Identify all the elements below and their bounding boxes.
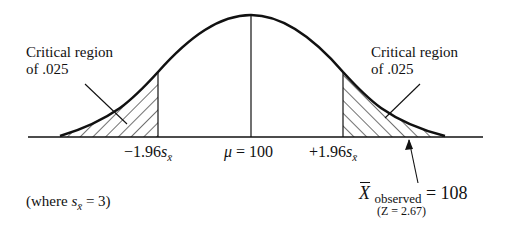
left-critical-tick: −1.96sx̄ <box>124 143 172 161</box>
right-critical-region-label: Critical region of .025 <box>371 44 458 78</box>
observed-mean-label: X observed = 108 <box>359 183 468 204</box>
right-critical-tick: +1.96sx̄ <box>309 143 357 161</box>
observed-z-label: (Z = 2.67) <box>377 204 426 219</box>
left-critical-region-label: Critical region of .025 <box>26 44 113 78</box>
standard-error-note: (where sx̄ = 3) <box>26 193 111 210</box>
mean-tick: μ = 100 <box>224 143 273 161</box>
observed-arrowhead <box>405 139 413 150</box>
right-region-pointer <box>385 84 420 118</box>
